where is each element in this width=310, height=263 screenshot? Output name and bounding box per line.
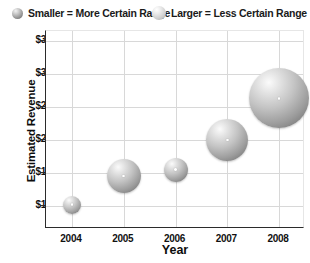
small-sphere-icon — [12, 8, 23, 19]
x-axis-tick-label: 2004 — [51, 233, 91, 244]
legend-item-larger: Larger = Less Certain Range — [152, 0, 307, 26]
data-point-marker — [174, 168, 177, 171]
gridline-horizontal — [46, 140, 303, 141]
plot-area — [45, 30, 304, 228]
gridline-vertical — [176, 31, 177, 227]
chart-legend: Smaller = More Certain Range Larger = Le… — [0, 0, 310, 26]
bubble-chart-figure: Smaller = More Certain Range Larger = Le… — [0, 0, 310, 263]
x-axis-tick-label: 2007 — [206, 233, 246, 244]
x-axis-tick-label: 2006 — [155, 233, 195, 244]
x-axis-tick-label: 2005 — [103, 233, 143, 244]
large-sphere-icon — [152, 6, 166, 20]
gridline-horizontal — [46, 206, 303, 207]
gridline-vertical — [124, 31, 125, 227]
legend-item-smaller: Smaller = More Certain Range — [12, 0, 170, 26]
data-point-marker — [226, 139, 229, 142]
x-axis-tick-label: 2008 — [258, 233, 298, 244]
x-axis-title: Year — [45, 243, 305, 257]
legend-label-smaller: Smaller = More Certain Range — [28, 7, 170, 19]
data-point-marker — [71, 203, 74, 206]
data-point-marker — [278, 97, 281, 100]
legend-label-larger: Larger = Less Certain Range — [171, 7, 307, 19]
gridline-vertical — [279, 31, 280, 227]
gridline-horizontal — [46, 41, 303, 42]
